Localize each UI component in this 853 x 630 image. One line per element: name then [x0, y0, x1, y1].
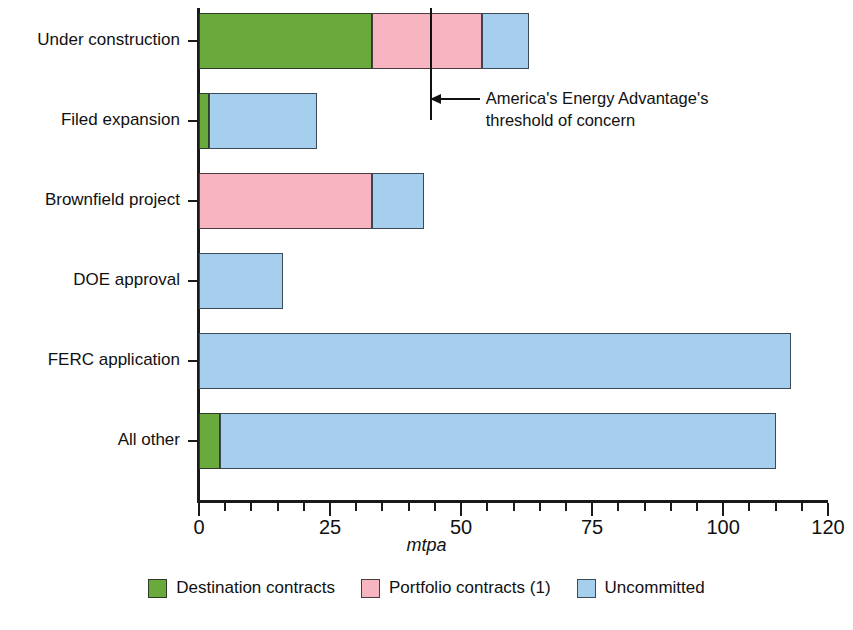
x-tick-major [722, 503, 724, 516]
bar-segment [199, 13, 372, 69]
bar-segment [199, 173, 372, 229]
bar-segment [199, 413, 220, 469]
x-tick-minor [355, 503, 357, 511]
legend-swatch-icon [577, 579, 596, 598]
x-tick-major [329, 503, 331, 516]
x-tick-minor [801, 503, 803, 511]
bar-segment [372, 173, 424, 229]
bar-chart: Under constructionFiled expansionBrownfi… [0, 0, 853, 630]
legend-item[interactable]: Uncommitted [577, 578, 705, 598]
legend-item[interactable]: Destination contracts [148, 578, 335, 598]
x-tick-major [827, 503, 829, 516]
bar-group [0, 93, 853, 149]
bar-segment [199, 93, 209, 149]
x-tick-minor [539, 503, 541, 511]
x-tick-minor [696, 503, 698, 511]
bar-segment [209, 93, 316, 149]
x-tick-minor [277, 503, 279, 511]
x-tick-minor [565, 503, 567, 511]
x-tick-minor [775, 503, 777, 511]
bar-segment [199, 333, 791, 389]
legend-label: Portfolio contracts (1) [389, 578, 551, 598]
bar-group [0, 333, 853, 389]
bar-group [0, 13, 853, 69]
x-tick-minor [381, 503, 383, 511]
bar-segment [372, 13, 482, 69]
x-tick-minor [224, 503, 226, 511]
x-tick-minor [250, 503, 252, 511]
threshold-label-line2: threshold of concern [486, 110, 636, 131]
x-tick-minor [670, 503, 672, 511]
bar-segment [220, 413, 776, 469]
x-tick-minor [434, 503, 436, 511]
threshold-label-line1: America's Energy Advantage's [486, 88, 709, 109]
x-tick-minor [748, 503, 750, 511]
bar-group [0, 253, 853, 309]
x-tick-major [591, 503, 593, 516]
x-tick-minor [408, 503, 410, 511]
x-axis-title: mtpa [0, 535, 853, 556]
x-tick-minor [486, 503, 488, 511]
legend-label: Uncommitted [605, 578, 705, 598]
bar-segment [482, 13, 529, 69]
x-tick-minor [644, 503, 646, 511]
threshold-arrow-icon [430, 92, 480, 106]
legend-item[interactable]: Portfolio contracts (1) [361, 578, 551, 598]
bar-group [0, 173, 853, 229]
x-tick-minor [303, 503, 305, 511]
legend-label: Destination contracts [176, 578, 335, 598]
x-tick-minor [617, 503, 619, 511]
x-tick-major [460, 503, 462, 516]
bar-segment [199, 253, 283, 309]
x-tick-major [198, 503, 200, 516]
bar-group [0, 413, 853, 469]
x-tick-minor [513, 503, 515, 511]
legend-swatch-icon [361, 579, 380, 598]
legend: Destination contractsPortfolio contracts… [0, 578, 853, 598]
legend-swatch-icon [148, 579, 167, 598]
